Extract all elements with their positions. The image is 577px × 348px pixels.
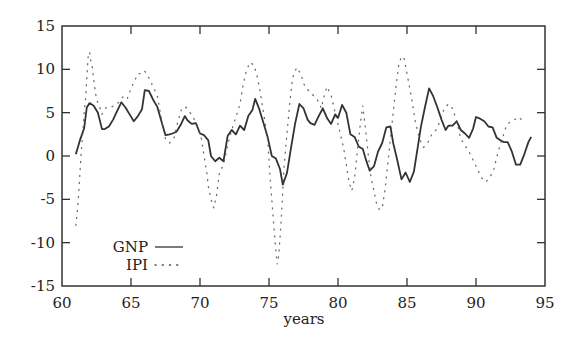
y-axis-tick-labels: 151050-5-10-15 <box>31 17 55 295</box>
x-tick-label: 95 <box>535 294 554 312</box>
series-dots-ipi <box>76 52 523 264</box>
x-tick-label: 65 <box>121 294 140 312</box>
y-tick-label: 10 <box>36 60 55 78</box>
series-line-gnp <box>76 88 531 184</box>
y-tick-label: -10 <box>31 234 55 252</box>
y-tick-label: -5 <box>40 190 55 208</box>
y-tick-label: 15 <box>36 17 55 35</box>
x-tick-label: 70 <box>190 294 209 312</box>
y-tick-label: 0 <box>45 147 55 165</box>
x-tick-label: 85 <box>397 294 416 312</box>
x-tick-label: 60 <box>52 294 71 312</box>
x-tick-label: 80 <box>328 294 347 312</box>
legend: GNP IPI <box>113 238 183 274</box>
legend-label-ipi: IPI <box>126 256 148 274</box>
x-axis-title: years <box>282 310 324 328</box>
y-axis-ticks <box>62 69 545 242</box>
line-chart: 6065707580859095 151050-5-10-15 years GN… <box>0 0 577 348</box>
x-tick-label: 90 <box>466 294 485 312</box>
y-tick-label: 5 <box>45 104 55 122</box>
legend-label-gnp: GNP <box>113 238 148 256</box>
series-layer <box>76 52 531 264</box>
y-tick-label: -15 <box>31 277 55 295</box>
x-tick-label: 75 <box>259 294 278 312</box>
